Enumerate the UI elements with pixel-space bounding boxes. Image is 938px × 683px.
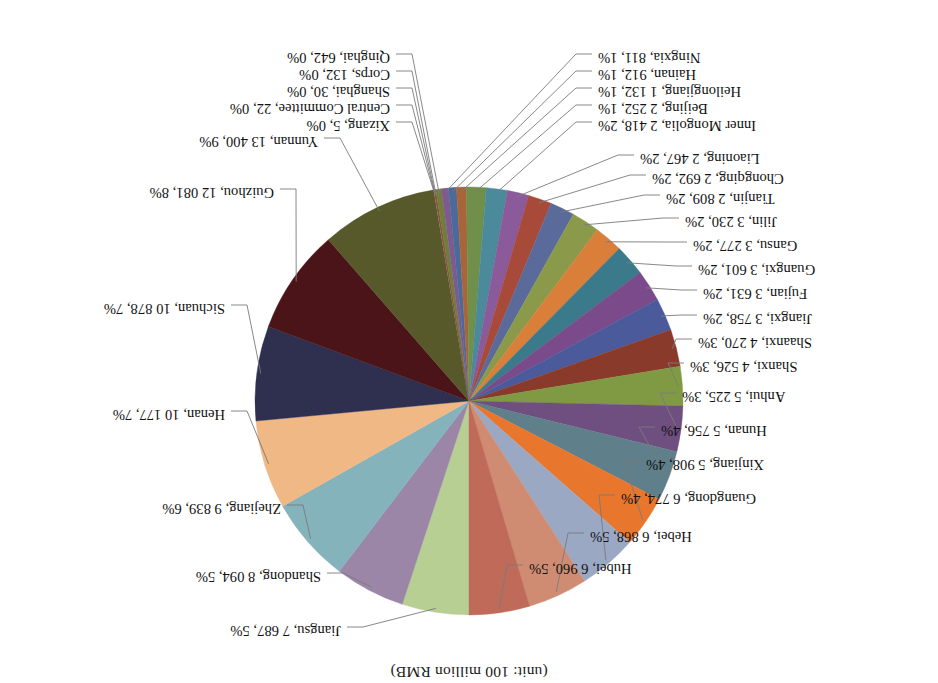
pie-label-qinghai: Qinghai, 642, 0% <box>287 50 390 65</box>
leader-line <box>462 88 592 191</box>
pie-label-inner-mongolia: Inner Mongolia, 2 418, 2% <box>598 118 756 133</box>
pie-label-central-committee: Central Committee, 22, 0% <box>230 101 390 116</box>
pie-label-zhejiang: Zhejiang, 9 839, 6% <box>162 501 281 516</box>
pie-label-guizhou: Guizhou, 12 081, 8% <box>150 185 274 200</box>
leader-line <box>396 88 435 194</box>
pie-label-xinjiang: Xinjiang, 5 908, 4% <box>646 457 764 472</box>
pie-graphic <box>253 185 685 617</box>
pie-label-hainan: Hainan, 912, 1% <box>598 67 696 82</box>
leader-line <box>476 105 592 191</box>
pie-label-gansu: Gansu, 3 277, 2% <box>693 238 797 253</box>
leader-line <box>453 71 592 192</box>
pie-label-jiangxi: Jiangxi, 3 758, 2% <box>703 311 812 326</box>
pie-label-fujian: Fujian, 3 631, 2% <box>703 286 807 301</box>
pie-label-xizang: Xizang, 5, 0% <box>307 118 391 133</box>
pie-label-shanghai: Shanghai, 30, 0% <box>287 84 390 99</box>
pie-label-chongqing: Chongqing, 2 692, 2% <box>652 171 784 186</box>
pie-label-ningxia: Ningxia, 811, 1% <box>598 50 700 65</box>
pie-label-jilin: Jilin, 3 230, 2% <box>685 214 777 229</box>
leader-line <box>445 54 592 192</box>
pie-label-jiangsu: Jiangsu, 7 687, 5% <box>230 623 341 638</box>
pie-label-heilongjiang: Heilongjiang, 1 132, 1% <box>598 84 741 99</box>
leader-line <box>396 122 435 194</box>
pie-label-shaanxi: Shaanxi, 4 270, 3% <box>698 335 812 350</box>
pie-label-hebei: Hebei, 6 868, 5% <box>590 529 692 544</box>
leader-line <box>496 122 592 193</box>
leader-line <box>396 105 435 194</box>
pie-label-shanxi: Shanxi, 4 526, 3% <box>690 359 797 374</box>
pie-label-henan: Henan, 10 177, 7% <box>113 407 225 422</box>
pie-label-tianjin: Tianjin, 2 809, 2% <box>666 191 775 206</box>
pie-svg <box>253 185 685 617</box>
chart-title: (unit: 100 million RMB) <box>0 663 938 681</box>
pie-label-shandong: Shandong, 8 094, 5% <box>196 569 321 584</box>
pie-chart-figure: (unit: 100 million RMB) Jiangsu, 7 687, … <box>0 0 938 683</box>
pie-label-corps: Corps, 132, 0% <box>299 67 390 82</box>
leader-line <box>396 71 436 194</box>
pie-label-hunan: Hunan, 5 756, 4% <box>661 423 767 438</box>
pie-label-guangdong: Guangdong, 6 774, 4% <box>621 491 756 506</box>
pie-label-yunnan: Yunnan, 13 400, 9% <box>199 134 318 149</box>
pie-slices <box>255 187 683 615</box>
pie-label-hubei: Hubei, 6 960, 5% <box>529 561 632 576</box>
pie-label-guangxi: Guangxi, 3 601, 2% <box>698 262 815 277</box>
pie-label-liaoning: Liaoning, 2 467, 2% <box>640 151 760 166</box>
pie-label-beijing: Beijing, 2 252, 1% <box>598 101 708 116</box>
pie-label-sichuan: Sichuan, 10 878, 7% <box>104 301 225 316</box>
pie-label-anhui: Anhui, 5 225, 3% <box>682 389 785 404</box>
leader-line <box>396 54 439 193</box>
